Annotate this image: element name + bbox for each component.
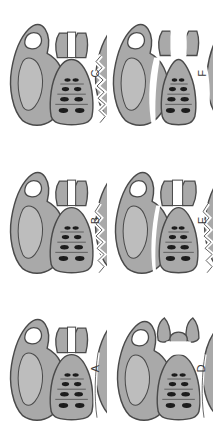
right-superior-pubic-ramus-f — [158, 31, 171, 55]
panel-label-a: A — [90, 365, 101, 372]
symphysis-gap-c — [67, 32, 75, 57]
panel-d: D — [107, 295, 214, 443]
symphysis-gap-b — [67, 180, 75, 205]
symphysis-gap-a — [67, 327, 75, 352]
panel-label-c: C — [90, 69, 101, 77]
pelvic-classification-figure: C — [0, 0, 213, 443]
right-inferior-pubic-ramus-d — [185, 318, 198, 342]
left-acetabulum-b — [25, 180, 42, 196]
right-inferior-pubic-ramus-c — [74, 33, 87, 57]
panel-label-b: B — [90, 217, 101, 224]
panel-label-e: E — [197, 217, 208, 224]
right-inferior-pubic-ramus-b — [74, 181, 87, 205]
left-acetabulum-f — [127, 33, 144, 49]
panel-e: E — [107, 148, 214, 296]
panel-a: A — [0, 295, 107, 443]
sacrum-f — [161, 60, 196, 125]
panel-b: B — [0, 148, 107, 296]
symphysis-wide-gap-d — [166, 342, 190, 355]
left-acetabulum-c — [25, 33, 42, 49]
panel-c: C — [0, 0, 107, 148]
right-inferior-pubic-ramus-e — [181, 181, 196, 205]
panel-label-d: D — [197, 365, 208, 373]
panel-f: F — [107, 0, 214, 148]
right-inferior-pubic-ramus-f — [185, 31, 198, 55]
symphysis-gap-e — [172, 180, 182, 205]
left-acetabulum-d — [131, 330, 148, 346]
right-superior-pubic-ramus-d — [157, 318, 170, 342]
right-inferior-pubic-ramus-a — [74, 328, 87, 352]
panel-label-f: F — [197, 70, 208, 77]
left-acetabulum-e — [129, 180, 146, 196]
panel-grid: C — [0, 0, 213, 443]
symphysis-gap-f — [170, 30, 186, 55]
left-acetabulum-a — [25, 328, 42, 344]
